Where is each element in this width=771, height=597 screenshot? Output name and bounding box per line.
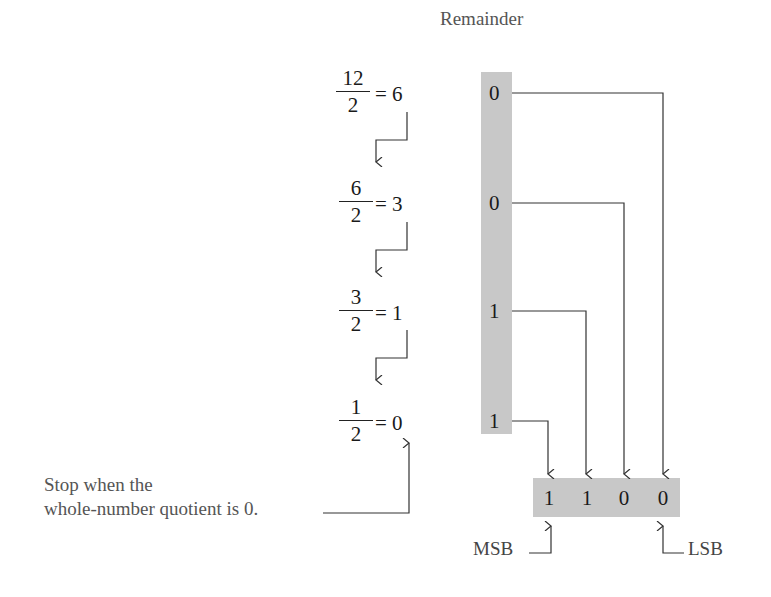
- remainder-line-2: [512, 203, 624, 474]
- remainder-line-1-to-lsb: [512, 93, 663, 474]
- connector-lines: [0, 0, 771, 597]
- msb-pointer: [529, 526, 551, 553]
- remainder-line-3: [512, 311, 586, 474]
- quotient-arrow-2: [376, 222, 407, 272]
- lsb-pointer: [663, 526, 684, 553]
- quotient-arrow-3: [376, 330, 407, 380]
- quotient-arrow-1: [376, 112, 407, 162]
- stop-arrow: [323, 443, 409, 513]
- remainder-line-4-to-msb: [512, 421, 548, 474]
